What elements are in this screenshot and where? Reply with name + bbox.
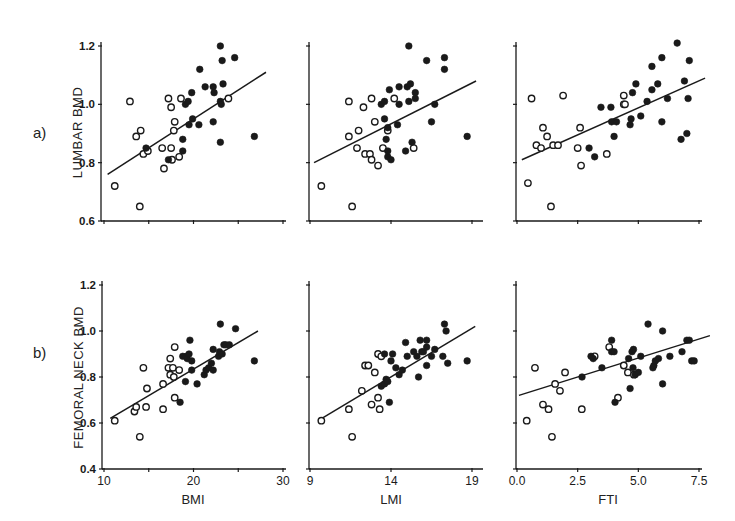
- filled-circle-point: [644, 98, 651, 105]
- panel-b-BMI: 0.40.60.81.01.2102030: [80, 279, 290, 488]
- open-circle-point: [548, 203, 554, 209]
- open-circle-point: [168, 145, 174, 151]
- filled-circle-point: [649, 63, 656, 70]
- filled-circle-point: [412, 89, 419, 96]
- filled-circle-point: [384, 378, 391, 385]
- open-circle-point: [621, 92, 627, 98]
- open-circle-point: [171, 374, 177, 380]
- open-circle-point: [359, 388, 365, 394]
- filled-circle-point: [409, 139, 416, 146]
- open-circle-point: [360, 104, 366, 110]
- x-tick-label: 5.0: [630, 474, 647, 488]
- filled-circle-point: [217, 321, 224, 328]
- open-circle-point: [557, 388, 563, 394]
- open-circle-point: [167, 355, 173, 361]
- open-circle-point: [538, 145, 544, 151]
- regression-line: [314, 81, 476, 163]
- regression-line: [519, 336, 710, 396]
- filled-circle-point: [179, 136, 186, 143]
- filled-circle-point: [423, 344, 430, 351]
- filled-circle-point: [431, 101, 438, 108]
- filled-circle-point: [629, 89, 636, 96]
- filled-circle-point: [393, 365, 400, 372]
- filled-circle-point: [196, 66, 203, 73]
- filled-circle-point: [383, 136, 390, 143]
- open-circle-point: [160, 381, 166, 387]
- filled-circle-point: [441, 66, 448, 73]
- open-circle-point: [604, 151, 610, 157]
- open-circle-point: [172, 395, 178, 401]
- filled-circle-point: [659, 381, 666, 388]
- open-circle-point: [165, 95, 171, 101]
- filled-circle-point: [389, 351, 396, 358]
- filled-circle-point: [590, 355, 597, 362]
- filled-circle-point: [417, 337, 424, 344]
- filled-circle-point: [599, 365, 606, 372]
- open-circle-point: [346, 98, 352, 104]
- open-circle-point: [137, 203, 143, 209]
- open-circle-point: [578, 162, 584, 168]
- x-axis-title-lmi: LMI: [371, 492, 411, 507]
- open-circle-point: [579, 406, 585, 412]
- open-circle-point: [318, 183, 324, 189]
- open-circle-point: [176, 367, 182, 373]
- open-circle-point: [161, 165, 167, 171]
- filled-circle-point: [441, 54, 448, 61]
- x-tick-label: 30: [276, 474, 290, 488]
- open-circle-point: [365, 362, 371, 368]
- filled-circle-point: [598, 104, 605, 111]
- filled-circle-point: [384, 124, 391, 131]
- open-circle-point: [318, 418, 324, 424]
- filled-circle-point: [210, 84, 217, 91]
- open-circle-point: [410, 145, 416, 151]
- filled-circle-point: [196, 121, 203, 128]
- open-circle-point: [555, 142, 561, 148]
- filled-circle-point: [613, 119, 620, 126]
- filled-circle-point: [633, 81, 640, 88]
- y-axis-title-lumbar-bmd: LUMBAR BMD: [70, 68, 85, 198]
- open-circle-point: [176, 154, 182, 160]
- filled-circle-point: [251, 133, 258, 140]
- filled-circle-point: [664, 95, 671, 102]
- open-circle-point: [552, 381, 558, 387]
- open-circle-point: [112, 183, 118, 189]
- row-label-a: a): [33, 124, 46, 141]
- filled-circle-point: [232, 325, 239, 332]
- filled-circle-point: [217, 43, 224, 50]
- filled-circle-point: [188, 358, 195, 365]
- open-circle-point: [528, 95, 534, 101]
- filled-circle-point: [627, 121, 634, 128]
- filled-circle-point: [165, 156, 172, 163]
- open-circle-point: [375, 162, 381, 168]
- filled-circle-point: [608, 337, 615, 344]
- filled-circle-point: [625, 355, 632, 362]
- filled-circle-point: [210, 119, 217, 126]
- y-tick-label: 0.6: [79, 215, 95, 227]
- x-tick-label: 0.0: [509, 474, 526, 488]
- filled-circle-point: [396, 101, 403, 108]
- open-circle-point: [160, 406, 166, 412]
- filled-circle-point: [659, 119, 666, 126]
- filled-circle-point: [627, 385, 634, 392]
- filled-circle-point: [611, 348, 618, 355]
- filled-circle-point: [608, 104, 615, 111]
- row-label-b: b): [33, 344, 46, 361]
- filled-circle-point: [210, 367, 217, 374]
- open-circle-point: [170, 365, 176, 371]
- filled-circle-point: [231, 54, 238, 61]
- open-circle-point: [172, 119, 178, 125]
- filled-circle-point: [637, 113, 644, 120]
- filled-circle-point: [219, 351, 226, 358]
- filled-circle-point: [591, 154, 598, 161]
- filled-circle-point: [188, 367, 195, 374]
- filled-circle-point: [686, 57, 693, 64]
- x-tick-label: 9: [307, 474, 314, 488]
- open-circle-point: [524, 418, 530, 424]
- filled-circle-point: [691, 358, 698, 365]
- filled-circle-point: [444, 360, 451, 367]
- filled-circle-point: [423, 337, 430, 344]
- filled-circle-point: [396, 84, 403, 91]
- filled-circle-point: [386, 399, 393, 406]
- filled-circle-point: [630, 346, 637, 353]
- y-axis-title-femoral-neck-bmd: FEMORAL NECK BMD: [71, 288, 86, 468]
